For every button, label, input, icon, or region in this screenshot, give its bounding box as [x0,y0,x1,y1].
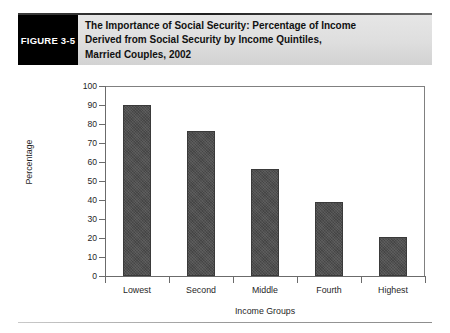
y-axis-tick-label: 20 [87,234,97,243]
figure-title-line-3: Married Couples, 2002 [85,48,426,62]
y-axis-tick [99,238,105,239]
x-axis-tick [297,277,298,283]
y-axis-line [105,86,106,277]
y-axis-tick-label: 50 [87,177,97,186]
x-axis-title: Income Groups [105,306,425,316]
y-axis-tick-label: 0 [92,272,97,281]
y-axis-tick [99,143,105,144]
y-axis-tick-label: 100 [83,82,97,91]
y-axis-tick [99,219,105,220]
x-axis-tick [233,277,234,283]
bar [123,105,151,276]
y-axis-tick-label: 70 [87,139,97,148]
bar [315,202,343,276]
y-axis-tick [99,162,105,163]
figure-title-band: The Importance of Social Security: Perce… [78,15,432,65]
bar [251,169,279,276]
y-axis-tick [99,124,105,125]
x-axis-tick [361,277,362,283]
y-axis-tick [99,105,105,106]
figure-footer-rule [18,322,432,323]
figure-number-box: FIGURE 3-5 [18,15,78,65]
y-axis-tick [99,200,105,201]
figure-number-label: FIGURE 3-5 [21,35,75,46]
x-axis-tick-label: Highest [353,285,433,295]
figure-title-line-1: The Importance of Social Security: Perce… [85,19,426,33]
figure-header: FIGURE 3-5 The Importance of Social Secu… [18,14,432,65]
y-axis-title: Percentage [24,117,34,207]
y-axis-tick [99,181,105,182]
bar-chart: 0102030405060708090100 Percentage Lowest… [0,65,450,315]
y-axis-tick-label: 40 [87,196,97,205]
bar [187,131,215,276]
y-axis-tick [99,86,105,87]
x-axis-tick [425,277,426,283]
y-axis-tick-label: 60 [87,158,97,167]
y-axis-tick [99,257,105,258]
y-axis-tick-label: 30 [87,215,97,224]
y-axis-tick-label: 80 [87,120,97,129]
figure-title-line-2: Derived from Social Security by Income Q… [85,33,426,47]
bar [379,237,407,276]
y-axis-tick-label: 10 [87,253,97,262]
x-axis-line [105,276,426,277]
x-axis-tick [105,277,106,283]
y-axis-tick-label: 90 [87,101,97,110]
x-axis-tick [169,277,170,283]
